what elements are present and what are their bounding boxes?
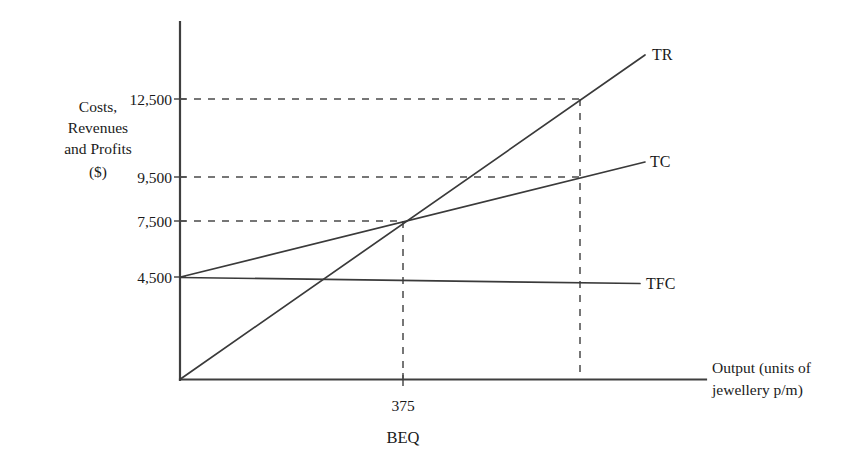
x-axis-title-line-2: jewellery p/m)	[711, 381, 803, 399]
y-axis-title-line-2: Revenues	[68, 119, 128, 136]
y-tick-label-7500: 7,500	[137, 213, 172, 230]
series-line-tc	[181, 162, 646, 277]
series-label-tfc: TFC	[646, 275, 675, 292]
series-line-tr	[181, 55, 646, 379]
y-tick-label-12500: 12,500	[129, 91, 172, 108]
x-tick-label-375: 375	[391, 397, 415, 414]
y-axis-title-line-4: ($)	[89, 163, 107, 181]
break-even-chart: 12,500 9,500 7,500 4,500 375 BEQ TR TC T…	[0, 0, 855, 465]
series-label-tc: TC	[650, 153, 670, 170]
x-axis-title-line-1: Output (units of	[712, 359, 812, 377]
series-line-tfc	[181, 278, 641, 284]
y-tick-label-9500: 9,500	[137, 169, 172, 186]
series-label-tr: TR	[652, 46, 673, 63]
y-tick-label-4500: 4,500	[137, 269, 172, 286]
y-axis-title-line-1: Costs,	[79, 98, 117, 115]
beq-annotation-label: BEQ	[387, 428, 420, 447]
chart-canvas: 12,500 9,500 7,500 4,500 375 BEQ TR TC T…	[0, 0, 855, 465]
y-axis-title-line-3: and Profits	[64, 140, 132, 157]
